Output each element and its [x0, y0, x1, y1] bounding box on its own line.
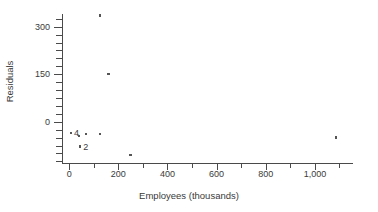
y-axis-tick: [54, 122, 62, 123]
residuals-scatter-figure: 015030002004006008001,000 42 Employees (…: [0, 0, 378, 212]
y-axis-tick: [54, 27, 62, 28]
y-axis-minor-tick: [56, 130, 62, 131]
y-axis-tick: [54, 74, 62, 75]
x-axis-minor-tick: [290, 164, 291, 168]
y-axis-minor-tick: [56, 66, 62, 67]
y-axis-minor-tick: [56, 58, 62, 59]
y-axis-minor-tick: [56, 138, 62, 139]
x-axis-tick-label: 800: [246, 170, 286, 179]
y-axis-minor-tick: [56, 98, 62, 99]
x-axis-minor-tick: [94, 164, 95, 168]
y-axis-minor-tick: [56, 146, 62, 147]
y-axis-line: [62, 14, 63, 163]
x-axis-tick-label: 400: [147, 170, 187, 179]
data-point-label: 2: [83, 143, 88, 152]
data-point: [335, 136, 338, 139]
x-axis-line: [62, 163, 353, 164]
x-axis-minor-tick: [241, 164, 242, 168]
y-axis-minor-tick: [56, 35, 62, 36]
x-axis-tick-label: 600: [197, 170, 237, 179]
x-axis-minor-tick: [339, 164, 340, 168]
x-axis-tick-label: 1,000: [295, 170, 335, 179]
data-point-label: 4: [74, 129, 79, 138]
y-axis-minor-tick: [56, 19, 62, 20]
data-point: [70, 132, 73, 135]
x-axis-title: Employees (thousands): [0, 190, 378, 201]
x-axis-tick-label: 0: [49, 170, 89, 179]
y-axis-minor-tick: [56, 43, 62, 44]
data-point: [99, 14, 102, 17]
x-axis-minor-tick: [192, 164, 193, 168]
y-axis-tick-label: 150: [22, 70, 50, 79]
y-axis-minor-tick: [56, 153, 62, 154]
y-axis-minor-tick: [56, 50, 62, 51]
y-axis-minor-tick: [56, 161, 62, 162]
y-axis-minor-tick: [56, 90, 62, 91]
data-point: [99, 133, 102, 136]
y-axis-tick-label: 300: [22, 23, 50, 32]
data-point: [85, 133, 88, 136]
data-point: [79, 145, 82, 148]
y-axis-minor-tick: [56, 106, 62, 107]
y-axis-minor-tick: [56, 82, 62, 83]
data-point: [107, 73, 110, 76]
y-axis-tick-label: 0: [22, 118, 50, 127]
y-axis-minor-tick: [56, 114, 62, 115]
data-point: [129, 154, 132, 157]
x-axis-tick-label: 200: [98, 170, 138, 179]
y-axis-title: Residuals: [4, 37, 15, 127]
x-axis-minor-tick: [143, 164, 144, 168]
